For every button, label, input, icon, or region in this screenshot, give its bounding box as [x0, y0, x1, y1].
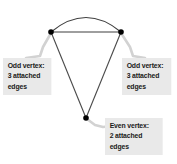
callout-odd-vertex-left: Odd vertex: 3 attached edges	[3, 58, 51, 95]
vertex-bottom	[83, 115, 89, 121]
callout-left-line-3: edges	[8, 82, 48, 92]
leader-line-right	[121, 33, 145, 58]
callout-bottom-line-1: Even vertex:	[110, 121, 159, 131]
vertex-top-left	[48, 29, 54, 35]
edge-arc-top	[51, 18, 121, 33]
edge-right-side	[86, 32, 121, 118]
vertex-top-right	[118, 29, 124, 35]
callout-right-line-2: 3 attached	[127, 71, 168, 81]
leader-line-left	[26, 33, 51, 58]
callout-right-line-3: edges	[127, 82, 168, 92]
callout-left-line-1: Odd vertex:	[8, 61, 48, 71]
callout-bottom-line-3: edges	[110, 142, 159, 152]
callout-left-line-2: 3 attached	[8, 71, 48, 81]
edge-left-side	[51, 32, 86, 118]
callout-odd-vertex-right: Odd vertex: 3 attached edges	[122, 58, 171, 95]
callout-even-vertex-bottom: Even vertex: 2 attached edges	[105, 118, 163, 155]
callout-bottom-line-2: 2 attached	[110, 131, 159, 141]
graph-diagram: Odd vertex: 3 attached edges Odd vertex:…	[0, 0, 177, 164]
callout-right-line-1: Odd vertex:	[127, 61, 168, 71]
